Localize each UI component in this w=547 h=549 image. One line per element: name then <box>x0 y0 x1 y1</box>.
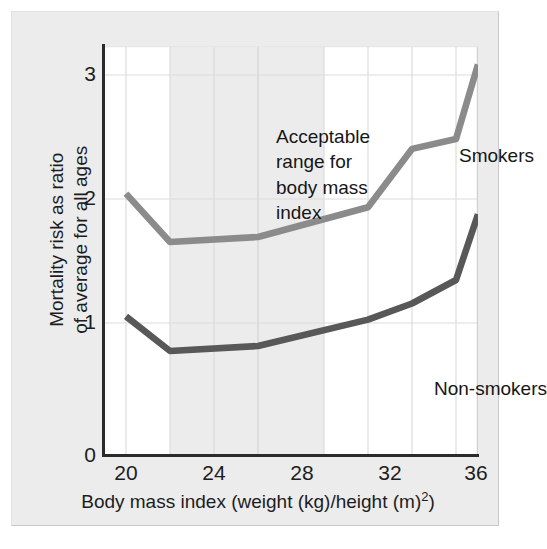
y-axis-title-line-2: of average for all ages <box>69 30 93 450</box>
acceptable-range-band <box>170 46 324 455</box>
x-axis-title-superscript: 2 <box>421 489 428 504</box>
x-axis-line <box>102 454 479 457</box>
x-axis-title-main: Body mass index (weight (kg)/height (m) <box>81 491 421 512</box>
x-tick-label-24: 24 <box>191 462 237 483</box>
x-tick-label-28: 28 <box>279 462 325 483</box>
y-axis-title: Mortality risk as ratio of average for a… <box>45 30 93 450</box>
x-axis-title-tail: ) <box>428 491 434 512</box>
y-axis-title-line-1: Mortality risk as ratio <box>45 30 69 450</box>
acceptable-range-annotation: Acceptable range for body mass index <box>276 124 416 225</box>
band-annotation-line-3: body mass <box>276 175 416 200</box>
band-annotation-line-4: index <box>276 200 416 225</box>
y-axis-line <box>102 44 105 457</box>
band-annotation-line-2: range for <box>276 149 416 174</box>
x-axis-title: Body mass index (weight (kg)/height (m)2… <box>0 492 516 511</box>
x-tick-labels: 20 24 28 32 36 <box>104 462 480 492</box>
x-tick-label-36: 36 <box>453 462 499 483</box>
series-label-smokers: Smokers <box>459 146 534 165</box>
plot-area: Acceptable range for body mass index Smo… <box>104 46 478 455</box>
plot-svg <box>104 46 478 455</box>
x-tick-label-20: 20 <box>103 462 149 483</box>
series-label-non-smokers: Non-smokers <box>434 379 547 398</box>
x-tick-label-32: 32 <box>367 462 413 483</box>
band-annotation-line-1: Acceptable <box>276 124 416 149</box>
